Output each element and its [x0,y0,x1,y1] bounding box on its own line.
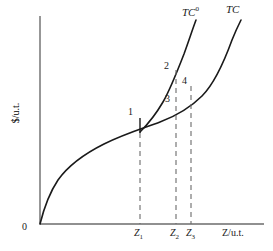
curve-tc0 [140,20,196,132]
curve-label-tc0-base: TC [182,6,195,18]
point-label-1: 1 [128,107,133,117]
y-axis-title-wrapper: $/u.t. [5,85,23,141]
x-tick-label-z3-subscript: 3 [192,233,196,241]
point-label-3: 3 [165,94,170,104]
point-label-4: 4 [182,76,187,86]
curve-label-tc0-superscript: 0 [195,5,199,13]
chart-plot-area [0,0,273,251]
cost-curve-figure: TC0 TC 1 2 3 4 Z1 Z2 Z3 0 Z/u.t. $/u.t. [0,0,273,251]
origin-label: 0 [22,222,27,232]
x-tick-label-z1-subscript: 1 [140,233,144,241]
x-tick-label-z2: Z2 [170,228,179,241]
curve-label-tc0: TC0 [182,6,199,18]
curve-label-tc: TC [226,4,239,15]
x-tick-label-z1: Z1 [134,228,143,241]
x-tick-label-z2-subscript: 2 [176,233,180,241]
y-axis-title: $/u.t. [10,103,21,124]
curve-label-tc-base: TC [226,3,239,15]
x-axis-title: Z/u.t. [222,228,244,238]
point-label-2: 2 [164,61,169,71]
x-tick-label-z3: Z3 [186,228,195,241]
